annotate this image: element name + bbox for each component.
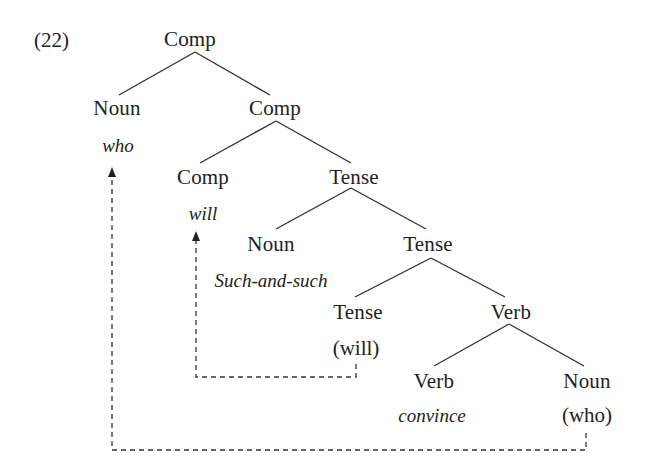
syntax-tree-diagram: (22) Comp Noun who Comp Comp will Tense … [0, 0, 647, 476]
node-tense-phrase: Tense [329, 166, 379, 188]
node-subject-noun: Noun [247, 233, 294, 255]
branch-line [355, 258, 431, 297]
branch-line [276, 121, 351, 163]
word-who-trace: (who) [562, 404, 612, 426]
node-comp-head: Comp [177, 166, 229, 188]
node-comp-bar: Comp [249, 97, 301, 119]
word-convince: convince [398, 405, 466, 427]
word-such-and-such: Such-and-such [215, 270, 328, 292]
node-tense-bar: Tense [403, 233, 453, 255]
branch-line [351, 188, 426, 229]
node-tense-head: Tense [333, 301, 383, 323]
arrowhead-icon [108, 167, 116, 177]
node-verb-phrase: Verb [491, 301, 531, 323]
branch-line [434, 324, 509, 366]
branch-line [200, 121, 276, 163]
word-will: will [189, 203, 218, 225]
word-who: who [102, 135, 134, 157]
branch-line [431, 258, 505, 297]
tree-edges [0, 0, 647, 476]
branch-line [119, 52, 195, 95]
node-object-noun: Noun [563, 370, 610, 392]
node-spec-noun: Noun [93, 97, 140, 119]
branch-line [195, 52, 270, 95]
branch-line [509, 324, 584, 366]
arrowhead-icon [192, 231, 200, 241]
example-number: (22) [34, 29, 69, 51]
branch-line [276, 188, 351, 229]
word-will-trace: (will) [333, 337, 380, 359]
node-root-comp: Comp [164, 28, 216, 50]
node-verb-head: Verb [414, 370, 454, 392]
